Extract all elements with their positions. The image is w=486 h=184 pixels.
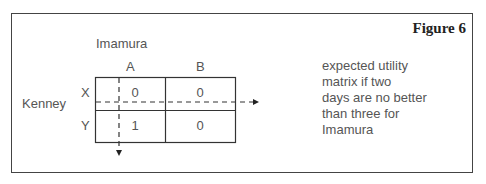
arrow-right-icon <box>253 99 259 105</box>
caption-line: days are no better <box>322 90 427 106</box>
caption-line: expected utility <box>322 58 427 74</box>
cell-x-a: 0 <box>128 85 142 100</box>
figure-caption: expected utility matrix if two days are … <box>322 58 427 138</box>
cell-y-b: 0 <box>193 118 207 133</box>
caption-line: Imamura <box>322 122 427 138</box>
cell-y-a: 1 <box>128 118 142 133</box>
caption-line: than three for <box>322 106 427 122</box>
cell-x-b: 0 <box>193 85 207 100</box>
arrow-down-icon <box>116 150 122 156</box>
caption-line: matrix if two <box>322 74 427 90</box>
